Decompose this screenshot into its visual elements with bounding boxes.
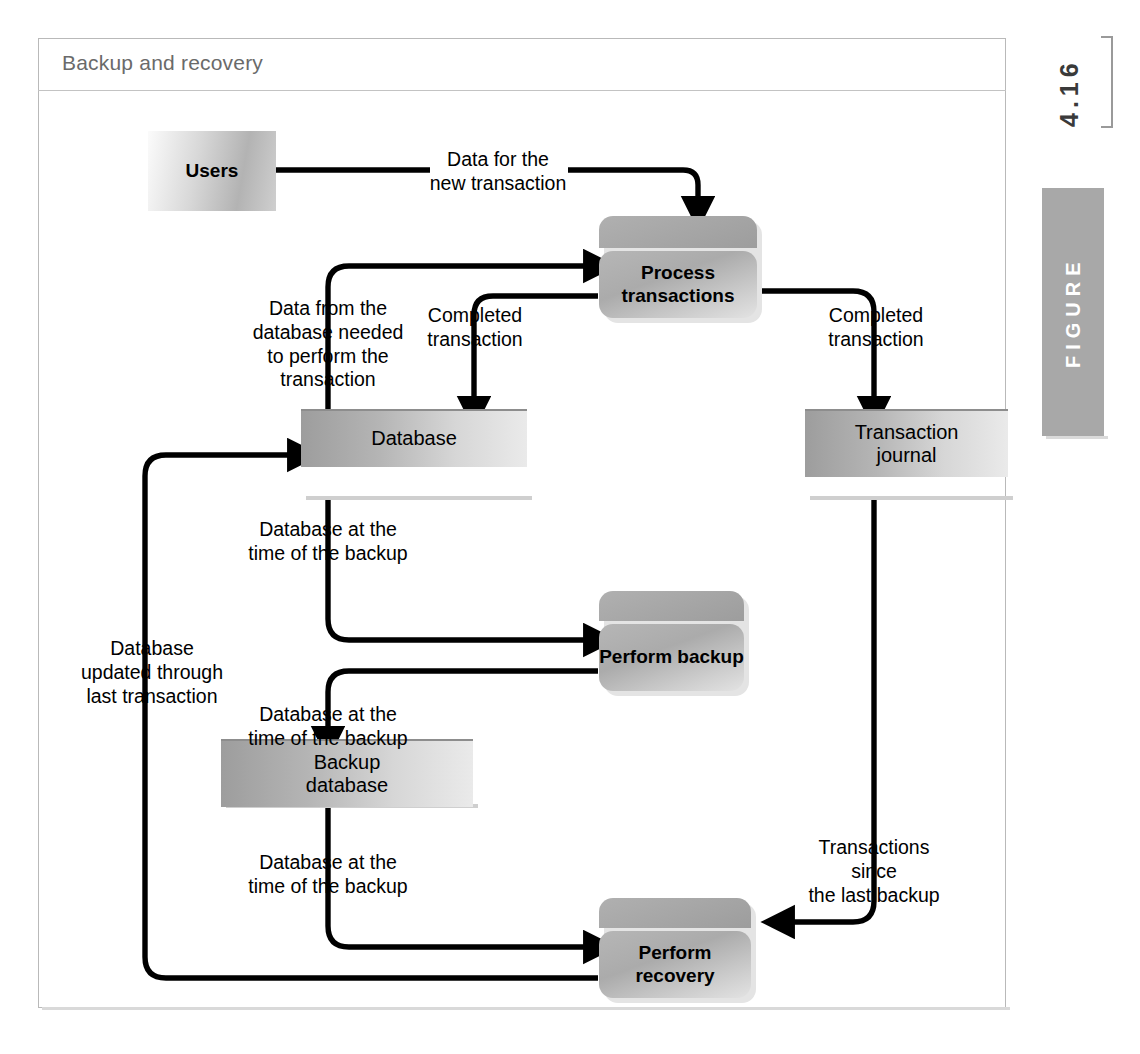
node-perform-recovery[interactable]: Perform recovery <box>599 931 751 998</box>
figure-page: Backup and recovery 4.16 FIGURE Process … <box>0 0 1140 1054</box>
diagram-canvas: Process transactions (left elbow up & ri… <box>38 91 1006 1008</box>
flow-label-data-for-new-transaction: Data for the new transaction <box>430 148 567 196</box>
node-process-transactions-label: Process transactions <box>599 262 757 306</box>
node-perform-recovery-cap <box>599 898 751 928</box>
node-perform-backup-cap <box>599 591 744 621</box>
figure-number-bracket <box>1101 36 1113 128</box>
flow-label-database-at-backup-time-3: Database at the time of the backup <box>248 851 407 899</box>
node-database-shadow <box>306 496 532 500</box>
figure-tab-label: FIGURE <box>1042 188 1104 436</box>
flow-label-data-from-database-needed: Data from the database needed to perform… <box>253 297 404 392</box>
flow-label-transactions-since-last-backup: Transactions since the last backup <box>808 836 940 907</box>
node-users-label: Users <box>186 160 239 182</box>
flow-label-database-at-backup-time-1: Database at the time of the backup <box>248 518 407 566</box>
figure-tab-shadow <box>1046 436 1108 439</box>
node-process-transactions[interactable]: Process transactions <box>599 251 757 318</box>
node-backup-database-label: Backup database <box>306 751 388 797</box>
flow-users-to-process-seg2 <box>568 170 698 209</box>
node-database[interactable]: Database <box>301 409 527 467</box>
node-transaction-journal-shadow <box>810 496 1013 500</box>
page-title: Backup and recovery <box>62 51 263 75</box>
node-transaction-journal-label: Transaction journal <box>855 421 959 467</box>
node-perform-recovery-label: Perform recovery <box>599 942 751 986</box>
node-perform-backup[interactable]: Perform backup <box>599 624 744 691</box>
node-process-transactions-cap <box>599 216 757 248</box>
flow-label-completed-transaction-database: Completed transaction <box>427 304 522 352</box>
node-perform-backup-label: Perform backup <box>599 646 744 668</box>
node-database-label: Database <box>371 427 457 450</box>
node-transaction-journal[interactable]: Transaction journal <box>805 409 1008 477</box>
flow-label-database-at-backup-time-2: Database at the time of the backup <box>248 703 407 751</box>
flow-label-database-updated-through-last: Database updated through last transactio… <box>81 637 223 708</box>
node-users[interactable]: Users <box>148 131 276 211</box>
figure-number: 4.16 <box>1046 28 1092 158</box>
flow-label-completed-transaction-journal: Completed transaction <box>828 304 923 352</box>
